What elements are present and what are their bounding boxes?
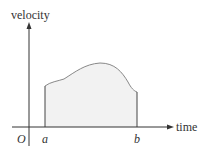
x-axis-label: time <box>176 120 197 134</box>
origin-label: O <box>17 132 26 146</box>
x-axis-arrow-icon <box>167 125 174 130</box>
bound-label-a: a <box>42 132 48 146</box>
y-axis-label: velocity <box>11 8 50 22</box>
bound-label-b: b <box>134 132 140 146</box>
velocity-time-diagram: velocity time O a b <box>0 0 206 155</box>
area-under-curve <box>45 63 137 127</box>
y-axis-arrow-icon <box>27 22 32 29</box>
